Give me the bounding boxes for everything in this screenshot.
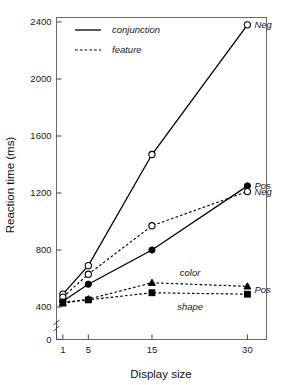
marker-open-circle — [149, 223, 155, 229]
annotation-label: shape — [177, 301, 203, 312]
marker-filled-square — [60, 299, 66, 305]
y-tick-label: 800 — [36, 244, 52, 255]
marker-filled-circle — [149, 247, 155, 253]
x-tick-label: 15 — [147, 344, 158, 355]
marker-open-circle — [244, 22, 250, 28]
marker-open-circle — [85, 271, 91, 277]
legend-item-feature: feature — [75, 44, 142, 55]
plot-frame — [57, 18, 267, 340]
x-tick-label: 5 — [86, 344, 91, 355]
marker-filled-square — [149, 290, 155, 296]
y-tick-label: 0 — [46, 334, 51, 345]
marker-filled-square — [245, 291, 251, 297]
y-tick-label: 2400 — [30, 16, 51, 27]
marker-filled-circle — [85, 281, 91, 287]
annotation-group: NegPosNegcolorshapePos — [177, 19, 272, 311]
marker-open-circle — [244, 188, 250, 194]
marker-filled-square — [85, 297, 91, 303]
series-feature-shape-positive — [60, 290, 250, 305]
chart-legend: conjunctionfeature — [75, 24, 160, 55]
y-tick-label: 2000 — [30, 73, 51, 84]
y-tick-label: 1200 — [30, 187, 51, 198]
series-conjunction-negative — [60, 22, 251, 298]
data-series-group — [59, 22, 250, 306]
y-tick-label: 400 — [36, 301, 52, 312]
series-line — [63, 25, 248, 294]
marker-filled-triangle — [149, 279, 156, 285]
marker-open-circle — [85, 263, 91, 269]
reaction-time-line-chart: 04008001200160020002400 151530 NegPosNeg… — [0, 0, 283, 385]
annotation-label: Neg — [254, 19, 272, 30]
marker-open-circle — [149, 151, 155, 157]
y-tick-label: 1600 — [30, 130, 51, 141]
x-axis-title: Display size — [130, 368, 191, 380]
annotation-label: Pos — [254, 284, 271, 295]
x-axis: 151530 — [60, 335, 252, 355]
x-tick-label: 1 — [60, 344, 65, 355]
x-tick-label: 30 — [242, 344, 253, 355]
legend-label: conjunction — [112, 24, 160, 35]
chart-figure: 04008001200160020002400 151530 NegPosNeg… — [0, 0, 283, 385]
legend-item-conjunction: conjunction — [75, 24, 160, 35]
annotation-label: Neg — [254, 186, 272, 197]
series-line — [63, 192, 248, 297]
annotation-label: color — [180, 267, 201, 278]
legend-label: feature — [112, 44, 142, 55]
y-axis-title: Reaction time (ms) — [4, 137, 16, 234]
